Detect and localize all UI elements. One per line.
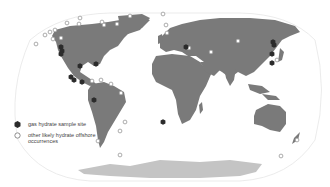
offshore-occurrence-marker: [128, 14, 132, 18]
offshore-occurrence-marker: [48, 30, 52, 34]
filled-hexagon-icon: [14, 121, 22, 129]
offshore-occurrence-marker: [118, 129, 122, 133]
offshore-occurrence-marker: [275, 58, 279, 62]
offshore-occurrence-marker: [165, 31, 169, 35]
open-circle-icon: [14, 132, 22, 140]
offshore-occurrence-marker: [279, 154, 283, 158]
sample-site-marker: [270, 60, 275, 66]
offshore-occurrence-marker: [115, 22, 119, 26]
offshore-occurrence-marker: [119, 91, 123, 95]
offshore-occurrence-marker: [77, 22, 81, 26]
offshore-occurrence-marker: [236, 39, 240, 43]
offshore-occurrence-marker: [164, 23, 168, 27]
offshore-occurrence-marker: [78, 16, 82, 20]
australia: [254, 104, 286, 132]
offshore-occurrence-marker: [123, 120, 127, 124]
legend-label: gas hydrate sample site: [28, 121, 98, 127]
offshore-occurrence-marker: [65, 21, 69, 25]
offshore-occurrence-marker: [161, 12, 165, 16]
india: [224, 68, 236, 86]
offshore-occurrence-marker: [53, 28, 57, 32]
legend-item-offshore: other likely hydrate offshore occurrence…: [14, 132, 98, 144]
map-legend: gas hydrate sample site other likely hyd…: [14, 121, 98, 147]
southeast-asia-islands: [248, 84, 280, 100]
offshore-occurrence-marker: [109, 82, 113, 86]
offshore-occurrence-marker: [295, 138, 299, 142]
offshore-occurrence-marker: [102, 23, 106, 27]
offshore-occurrence-marker: [118, 153, 122, 157]
offshore-occurrence-marker: [99, 78, 103, 82]
offshore-occurrence-marker: [43, 33, 47, 37]
antarctica: [78, 160, 262, 178]
world-map: [0, 0, 330, 187]
madagascar: [199, 102, 203, 114]
offshore-occurrence-marker: [34, 42, 38, 46]
offshore-occurrence-marker: [90, 79, 94, 83]
sample-site-marker: [161, 119, 166, 125]
legend-label: other likely hydrate offshore occurrence…: [28, 132, 98, 144]
offshore-occurrence-marker: [209, 50, 213, 54]
legend-item-sample-site: gas hydrate sample site: [14, 121, 98, 129]
offshore-occurrence-marker: [59, 36, 63, 40]
offshore-occurrence-marker: [51, 37, 55, 41]
